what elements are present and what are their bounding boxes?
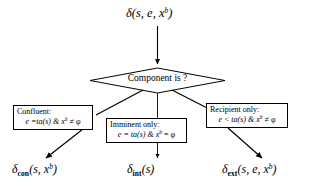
output-node-delta-con: δcon(s, xb) <box>12 163 57 175</box>
edge-recipient-to-output <box>228 128 262 158</box>
input-args: (s, e, x <box>132 6 165 20</box>
condition-title-confluent: Confluent: <box>17 107 89 116</box>
condition-title-imminent: Imminent only: <box>110 120 183 129</box>
output-node-delta-ext: δext(s, e, xb) <box>222 163 277 175</box>
out-con-subscript: con <box>18 169 30 178</box>
formula-prefix-confluent: e =ta(s) & x <box>25 117 64 126</box>
condition-formula-imminent: e = ta(s) & xb = φ <box>110 130 183 140</box>
input-close-paren: ) <box>168 6 172 20</box>
out-ext-symbol: δ <box>222 162 228 176</box>
condition-formula-recipient: e < ta(s) & xb ≠ φ <box>210 115 284 125</box>
out-con-args: (s, x <box>29 162 49 176</box>
condition-box-confluent: Confluent: e =ta(s) & xb ≠ φ <box>13 105 93 130</box>
condition-title-recipient: Recipient only: <box>210 105 284 114</box>
condition-box-imminent: Imminent only: e = ta(s) & xb = φ <box>106 118 187 143</box>
formula-superscript-imminent: b <box>159 129 162 135</box>
out-con-symbol: δ <box>12 162 18 176</box>
input-superscript: b <box>164 6 168 15</box>
out-ext-subscript: ext <box>228 169 238 178</box>
formula-superscript-confluent: b <box>65 116 68 122</box>
formula-prefix-recipient: e < ta(s) & x <box>218 115 259 124</box>
formula-superscript-recipient: b <box>260 114 263 120</box>
diagram-connectors <box>0 0 315 189</box>
decision-label: Component is ? <box>90 73 225 83</box>
output-node-delta-int: δint(s) <box>127 163 154 175</box>
out-int-subscript: int <box>133 169 142 178</box>
condition-box-recipient: Recipient only: e < ta(s) & xb ≠ φ <box>206 103 288 128</box>
formula-prefix-imminent: e = ta(s) & x <box>118 130 159 139</box>
formula-suffix-imminent: = φ <box>162 130 175 139</box>
out-con-superscript: b <box>49 162 53 171</box>
formula-suffix-confluent: ≠ φ <box>68 117 81 126</box>
input-node-label: δ(s, e, xb) <box>126 7 172 20</box>
out-ext-close: ) <box>273 162 277 176</box>
out-con-close: ) <box>53 162 57 176</box>
flowchart-diagram: δ(s, e, xb) Component is ? Confluent: e … <box>0 0 315 189</box>
out-int-close: ) <box>150 162 154 176</box>
formula-suffix-recipient: ≠ φ <box>263 115 276 124</box>
edge-confluent-to-output <box>46 129 83 158</box>
out-ext-args: (s, e, x <box>237 162 268 176</box>
condition-formula-confluent: e =ta(s) & xb ≠ φ <box>17 117 89 127</box>
out-int-args: (s <box>142 162 151 176</box>
out-int-symbol: δ <box>127 162 133 176</box>
out-ext-superscript: b <box>269 162 273 171</box>
edge-decision-to-confluent <box>96 90 143 115</box>
